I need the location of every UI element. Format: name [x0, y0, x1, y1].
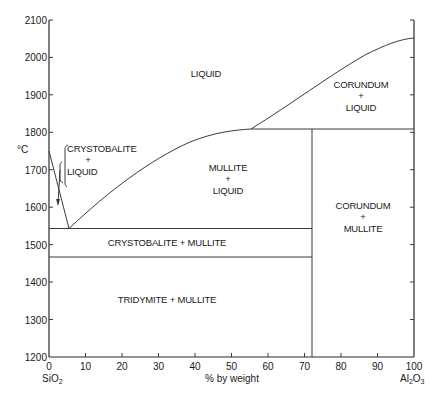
x-tick-60: 60: [262, 361, 274, 372]
y-tick-1400: 1400: [25, 277, 48, 288]
region-corundum-liquid-2: LIQUID: [346, 102, 377, 113]
region-corundum-liquid-1: CORUNDUM: [334, 79, 389, 90]
x-tick-80: 80: [335, 361, 347, 372]
x-tick-10: 10: [80, 361, 92, 372]
region-corundum-mullite-1: CORUNDUM: [336, 200, 391, 211]
y-tick-1800: 1800: [25, 127, 48, 138]
x-axis-title: % by weight: [205, 373, 259, 384]
region-corundum-mullite-plus: +: [360, 211, 366, 222]
region-corundum-mullite-2: MULLITE: [344, 223, 383, 234]
region-liquid: LIQUID: [191, 68, 222, 79]
y-tick-2100: 2100: [25, 15, 48, 26]
region-corundum-liquid-plus: +: [358, 90, 364, 101]
x-tick-labels: 0 10 20 30 40 50 60 70 80 90 100: [46, 361, 423, 372]
y-tick-1300: 1300: [25, 315, 48, 326]
corundum-liquidus: [251, 38, 414, 129]
region-mullite-liquid-plus: +: [225, 173, 231, 184]
sio2-label: SiO2: [42, 373, 63, 385]
x-tick-20: 20: [116, 361, 128, 372]
region-crystobalite-mullite: CRYSTOBALITE + MULLITE: [108, 237, 227, 248]
phase-diagram: 2100 2000 1900 1800 1700 1600 1500 1400 …: [0, 0, 436, 401]
region-tridymite-mullite: TRIDYMITE + MULLITE: [118, 294, 216, 305]
y-tick-1600: 1600: [25, 202, 48, 213]
x-tick-70: 70: [299, 361, 311, 372]
y-axis-unit: °C: [17, 144, 28, 155]
y-tick-1900: 1900: [25, 90, 48, 101]
x-tick-50: 50: [226, 361, 238, 372]
x-tick-30: 30: [153, 361, 165, 372]
y-tick-2000: 2000: [25, 52, 48, 63]
x-tick-0: 0: [46, 361, 52, 372]
region-crystobalite-liquid-plus: +: [85, 154, 91, 165]
y-tick-1200: 1200: [25, 352, 48, 363]
y-tick-1500: 1500: [25, 240, 48, 251]
region-crystobalite-liquid-1: CRYSTOBALITE: [67, 143, 137, 154]
region-labels: LIQUID CORUNDUM + LIQUID CRYSTOBALITE + …: [67, 68, 391, 305]
x-tick-100: 100: [406, 361, 423, 372]
region-mullite-liquid-2: LIQUID: [213, 185, 244, 196]
region-crystobalite-liquid-2: LIQUID: [67, 166, 98, 177]
region-mullite-liquid-1: MULLITE: [209, 162, 248, 173]
y-tick-labels: 2100 2000 1900 1800 1700 1600 1500 1400 …: [25, 15, 48, 363]
x-tick-90: 90: [372, 361, 384, 372]
x-tick-40: 40: [189, 361, 201, 372]
al2o3-label: Al2O3: [400, 373, 425, 385]
y-tick-1700: 1700: [25, 165, 48, 176]
